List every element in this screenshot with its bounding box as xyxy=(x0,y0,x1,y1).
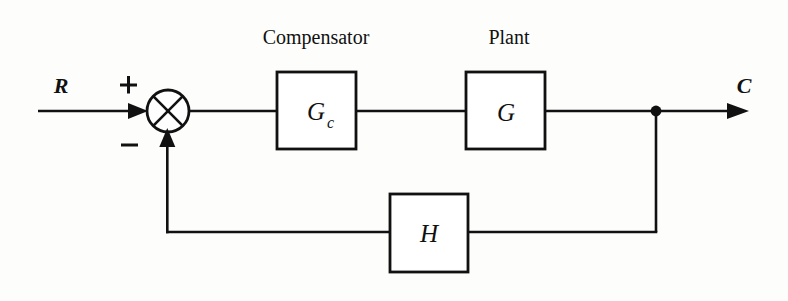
block-diagram-canvas: Compensator Plant R G c xyxy=(0,0,788,301)
summing-junction xyxy=(147,90,189,132)
control-system-block-diagram: Compensator Plant R G c xyxy=(0,0,788,301)
block-plant: G xyxy=(466,72,545,149)
arrowhead-output xyxy=(727,103,749,119)
summing-junction-positive-sign xyxy=(120,76,137,94)
signal-label-input-r: R xyxy=(53,73,69,98)
block-plant-label: G xyxy=(497,99,515,126)
block-compensator: G c xyxy=(277,72,356,149)
caption-plant: Plant xyxy=(488,26,530,48)
block-feedback: H xyxy=(390,194,468,272)
arrowhead-input-to-summing-junction xyxy=(128,103,148,119)
signal-label-output-c: C xyxy=(737,73,752,98)
block-feedback-label: H xyxy=(419,220,440,247)
caption-compensator: Compensator xyxy=(263,26,370,49)
block-compensator-subscript: c xyxy=(327,114,334,131)
block-compensator-label: G xyxy=(307,98,325,125)
